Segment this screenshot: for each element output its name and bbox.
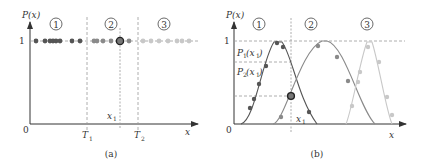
x1-highlight-point <box>288 93 295 100</box>
y-axis-label: P(x) <box>225 10 245 20</box>
y-tick-one: 1 <box>19 36 25 46</box>
region-label-1: 1 <box>53 20 59 30</box>
x-axis-label: x <box>185 127 190 137</box>
t2-subscript: 2 <box>141 135 145 142</box>
class3-points <box>350 45 394 117</box>
class3-curve <box>346 42 392 124</box>
t1-label: T <box>82 130 89 140</box>
panel-a: 1 2 3 P(x) 1 0 x T 1 T 2 x 1 (a) <box>19 10 200 159</box>
figure-canvas: 1 2 3 P(x) 1 0 x T 1 T 2 x 1 (a) <box>0 0 427 167</box>
region-label-1: 1 <box>256 20 262 30</box>
t2-label: T <box>134 130 141 140</box>
x1-highlight-point <box>116 37 123 44</box>
x-axis-label: x <box>389 130 394 140</box>
region-label-2: 2 <box>108 20 114 30</box>
origin-label: 0 <box>226 125 232 135</box>
svg-text:(x: (x <box>246 48 255 58</box>
t1-subscript: 1 <box>89 135 93 142</box>
region-label-2: 2 <box>308 20 314 30</box>
panel-b: 1 2 3 P(x) 1 0 x P 1 (x 1 ) P 2 (x 1 ) x… <box>224 10 406 159</box>
svg-text:): ) <box>258 67 263 77</box>
x1-subscript: 1 <box>302 118 306 125</box>
x1-label: x <box>296 114 301 124</box>
class3-points <box>141 39 192 44</box>
region-label-3: 3 <box>364 20 370 30</box>
caption-b: (b) <box>311 149 324 159</box>
svg-text:): ) <box>258 48 263 58</box>
svg-text:(x: (x <box>246 67 255 77</box>
x1-label: x <box>107 111 112 121</box>
origin-label: 0 <box>23 125 29 135</box>
y-tick-one: 1 <box>224 36 230 46</box>
p2-label: P 2 (x 1 ) <box>236 67 263 78</box>
x1-subscript: 1 <box>113 115 117 122</box>
class2-points <box>279 44 350 119</box>
p1-label: P 1 (x 1 ) <box>236 48 263 59</box>
region-label-3: 3 <box>161 20 167 30</box>
caption-a: (a) <box>105 149 117 159</box>
y-axis-label: P(x) <box>21 10 41 20</box>
